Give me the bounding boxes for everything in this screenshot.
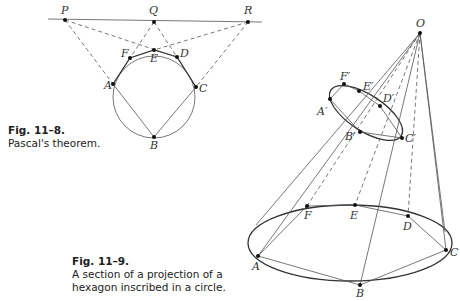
- label-p: P: [60, 4, 69, 17]
- label-c-prime: C′: [405, 132, 416, 145]
- point-o: [418, 31, 422, 35]
- extension-pa: [65, 20, 113, 84]
- label-b-base: B: [355, 287, 364, 300]
- point-c-prime: [400, 136, 404, 140]
- figure-9-caption-line1: A section of a projection of a: [72, 268, 226, 281]
- point-b-prime: [358, 130, 362, 134]
- label-c: C: [199, 82, 208, 95]
- generator-of: [307, 33, 420, 206]
- point-r: [246, 20, 250, 24]
- generator-oa: [258, 33, 420, 256]
- extension-re: [154, 22, 248, 50]
- point-e-prime: [357, 89, 361, 93]
- label-o: O: [416, 17, 425, 30]
- figure-8-label: Fig. 11–8.: [8, 124, 100, 137]
- figure-9-label: Fig. 11–9.: [72, 255, 226, 268]
- point-d: [175, 55, 179, 59]
- label-e-base: E: [349, 209, 358, 222]
- figure-8-caption-text: Pascal's theorem.: [8, 137, 100, 150]
- point-c: [194, 85, 198, 89]
- point-a-base: [256, 254, 260, 258]
- point-d-prime: [378, 104, 382, 108]
- label-f-base: F: [303, 209, 312, 222]
- label-f: F: [120, 47, 129, 60]
- label-f-prime: F′: [339, 70, 351, 83]
- label-e-prime: E′: [362, 80, 374, 93]
- label-b: B: [149, 139, 158, 152]
- label-a: A: [103, 79, 112, 92]
- figure-8-caption: Fig. 11–8. Pascal's theorem.: [8, 124, 100, 150]
- label-d-prime: D′: [382, 92, 395, 105]
- generator-outline-right: [420, 33, 445, 232]
- label-e: E: [149, 52, 158, 65]
- label-a-base: A: [251, 260, 260, 273]
- point-p: [63, 18, 67, 22]
- label-b-prime: B′: [344, 130, 356, 143]
- side-ab: [113, 84, 154, 137]
- figures-canvas: P Q R A B C D E F: [0, 0, 460, 301]
- label-c-base: C: [450, 246, 459, 259]
- point-f-base: [305, 204, 309, 208]
- point-a-prime: [328, 97, 332, 101]
- label-q: Q: [149, 4, 158, 17]
- point-q: [152, 20, 156, 24]
- label-d-base: D: [402, 220, 412, 233]
- label-a-prime: A′: [316, 105, 328, 118]
- generator-ob: [360, 33, 420, 285]
- extension-rc: [196, 22, 248, 87]
- generator-oe: [355, 33, 420, 205]
- figure-9-caption: Fig. 11–9. A section of a projection of …: [72, 255, 226, 294]
- pascal-circle: [113, 56, 195, 138]
- point-c-base: [444, 248, 448, 252]
- figure-9-caption-line2: hexagon inscribed in a circle.: [72, 281, 226, 294]
- point-e-base: [353, 203, 357, 207]
- label-r: R: [243, 4, 252, 17]
- point-d-base: [406, 214, 410, 218]
- side-bc: [154, 87, 196, 137]
- cone-figure: O A B C D E F A′ B′ C′ D′ E′ F′: [248, 17, 459, 300]
- label-d: D: [179, 47, 189, 60]
